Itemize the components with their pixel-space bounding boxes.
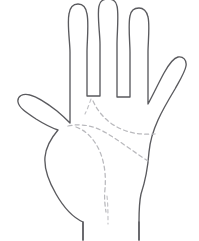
hand-outline-path: [18, 0, 186, 240]
palm-illustration: [0, 0, 199, 241]
palm-diagram: [0, 0, 199, 241]
